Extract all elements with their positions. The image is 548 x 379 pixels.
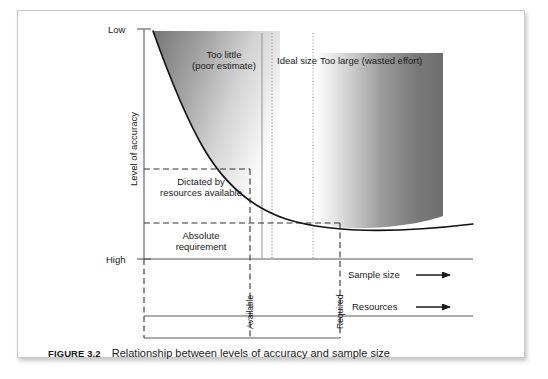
y-tick-label-low: Low [108,24,125,35]
y-axis-title: Level of accuracy [128,112,139,186]
annotation-absolute-line2: requirement [152,241,250,252]
annotation-dictated-line1: Dictated by [152,176,250,187]
y-tick-label-high: High [106,254,126,265]
annotation-absolute-line1: Absolute [152,230,250,241]
axis-label-resources: Resources [352,301,397,312]
x-tick-label-available: Available [245,295,255,329]
region-label-too-little-line1: Too little [176,49,272,60]
region-label-too-large: Too large (wasted effort) [320,55,422,66]
figure-panel: Low High Level of accuracy Too little (p… [17,10,525,358]
axis-label-sample-size: Sample size [348,269,400,280]
figure-caption-label: FIGURE 3.2 [48,348,101,359]
region-label-ideal-size: Ideal size [277,55,317,66]
figure-caption: FIGURE 3.2Relationship between levels of… [48,347,528,359]
x-tick-label-required: Required [335,295,345,330]
region-label-too-little-line2: (poor estimate) [170,60,278,71]
region-too-large-fill [315,53,443,228]
annotation-dictated-line2: resources available [146,187,256,198]
figure-root: Low High Level of accuracy Too little (p… [0,0,548,379]
figure-caption-text: Relationship between levels of accuracy … [112,347,390,359]
